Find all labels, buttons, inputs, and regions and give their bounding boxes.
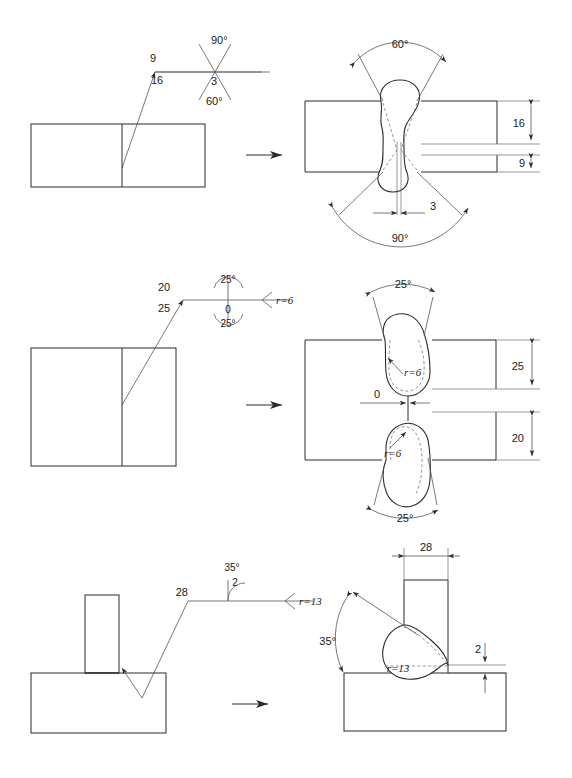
row1-root-gap-label: 3 [211, 75, 217, 87]
row3-radius-label: r=13 [299, 595, 322, 607]
row1-depth-below-label: 16 [151, 74, 163, 86]
row2-depth-above-label: 20 [158, 281, 170, 293]
row2-root-gap-label: 0 [225, 304, 231, 315]
row3-depth-label: 28 [176, 586, 188, 598]
row2-weld-section [305, 284, 540, 518]
row1-weld-section [305, 42, 540, 247]
row1-thickness-lower-dim: 9 [519, 157, 525, 169]
row2-angle-top-dim: 25° [395, 278, 412, 290]
row3-leader-kink [142, 601, 188, 698]
row2-thickness-upper-dim: 25 [512, 360, 524, 372]
row1-depth-above-label: 9 [150, 52, 156, 64]
row3-weld-section [335, 548, 506, 731]
row1-angle-top-dim: 60° [392, 38, 409, 50]
row1-leader-arrow [122, 72, 155, 168]
row3-radius-dim: r=13 [387, 662, 410, 674]
row2-radius-top-dim: r=6 [404, 366, 422, 378]
row3-root-face-label: 2 [232, 577, 238, 588]
drawing-canvas: 9 16 90° 3 60° [0, 0, 572, 778]
row2-leader-arrow [122, 300, 183, 405]
row3-tee-joint [31, 595, 166, 733]
row1-angle-bottom-dim: 90° [392, 232, 409, 244]
row1-thickness-upper-dim: 16 [513, 117, 525, 129]
row2-joint-plates [31, 348, 176, 466]
row2-radius-bottom-dim: r=6 [384, 447, 402, 459]
row2-radius-label: r=6 [276, 294, 294, 306]
row2-thickness-lower-dim: 20 [512, 432, 524, 444]
row2-welding-symbol [122, 277, 290, 405]
row2-angle-below-label: 25° [220, 318, 235, 329]
drawing-sheet: 9 16 90° 3 60° [0, 0, 572, 778]
row2-angle-above-label: 25° [220, 274, 235, 285]
row1-welding-symbol [122, 44, 270, 168]
row1-root-gap-dim: 3 [430, 200, 436, 212]
row1-angle-below-label: 60° [206, 95, 223, 107]
row1-angle-above-label: 90° [211, 34, 228, 46]
row2-angle-bottom-dim: 25° [397, 512, 414, 524]
row2-depth-below-label: 25 [158, 302, 170, 314]
row3-width-dim: 28 [420, 541, 432, 553]
row3-welding-symbol [122, 580, 313, 698]
row3-angle-dim: 35° [319, 635, 336, 647]
row2-root-gap-dim: 0 [374, 388, 380, 400]
row3-angle-label: 35° [224, 562, 239, 573]
row3-root-face-dim: 2 [475, 643, 481, 655]
row1-joint-plates [31, 124, 205, 187]
